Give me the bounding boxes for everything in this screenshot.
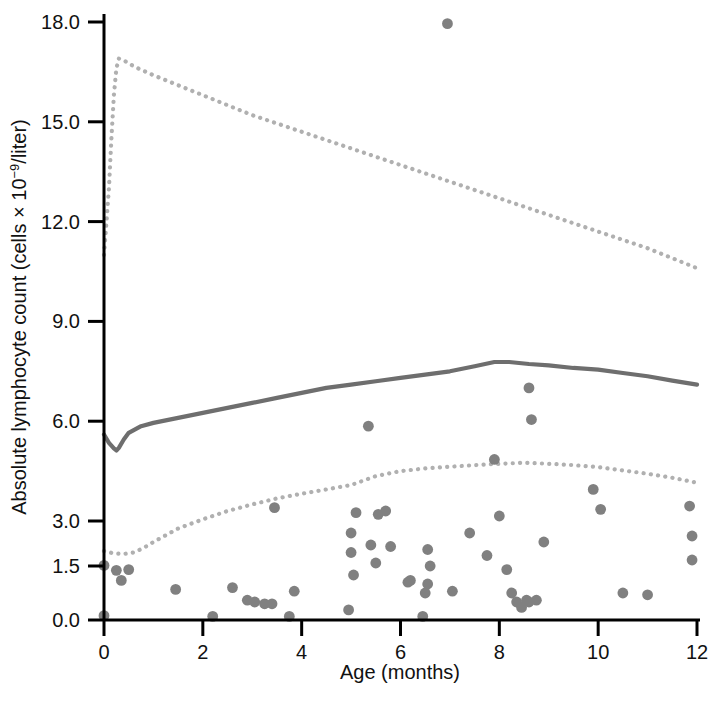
scatter-point [595,504,606,515]
scatter-point [351,507,362,518]
scatter-point [494,511,505,522]
x-tick-label: 8 [494,641,505,663]
svg-text:Absolute lymphocyte count (cel: Absolute lymphocyte count (cells × 10−9/… [7,119,30,515]
y-tick-label: 1.5 [52,555,80,577]
scatter-point [684,501,695,512]
y-tick-label: 6.0 [52,410,80,432]
x-tick-label: 2 [197,641,208,663]
scatter-point [343,605,354,616]
y-axis-title-tail: /liter) [8,119,30,163]
scatter-point [111,565,122,576]
y-tick-label: 9.0 [52,310,80,332]
scatter-point [442,18,453,29]
scatter-point [642,589,653,600]
scatter-point [267,598,278,609]
x-tick-label: 10 [587,641,609,663]
scatter-point [346,528,357,539]
scatter-point [249,597,260,608]
scatter-point [482,550,493,561]
x-tick-label: 4 [296,641,307,663]
scatter-point [269,502,280,513]
x-tick-label: 6 [395,641,406,663]
scatter-point [524,383,535,394]
chart-background [0,0,720,708]
scatter-point [538,537,549,548]
scatter-point [422,544,433,555]
x-tick-label: 0 [98,641,109,663]
lymphocyte-count-scatter-chart: 0.01.53.06.09.012.015.018.0 024681012 Ag… [0,0,720,708]
y-tick-label: 15.0 [41,111,80,133]
scatter-point [489,454,500,465]
y-tick-label: 12.0 [41,211,80,233]
y-axis-title: Absolute lymphocyte count (cells × 10−9/… [7,119,30,515]
scatter-point [501,564,512,575]
scatter-point [170,584,181,595]
scatter-point [687,555,698,566]
scatter-point [346,547,357,558]
scatter-point [385,541,396,552]
scatter-point [405,575,416,586]
scatter-point [617,588,628,599]
scatter-point [687,531,698,542]
scatter-point [447,586,458,597]
scatter-point [227,582,238,593]
scatter-point [348,570,359,581]
scatter-point [425,561,436,572]
y-tick-label: 3.0 [52,510,80,532]
scatter-point [123,564,134,575]
scatter-point [370,558,381,569]
scatter-point [588,484,599,495]
y-tick-label: 18.0 [41,11,80,33]
chart-container: 0.01.53.06.09.012.015.018.0 024681012 Ag… [0,0,720,708]
scatter-point [464,528,475,539]
scatter-point [526,414,537,425]
scatter-point [422,579,433,590]
y-axis-title-main: Absolute lymphocyte count (cells × 10 [8,178,30,514]
scatter-point [116,575,127,586]
x-tick-label: 12 [686,641,708,663]
y-tick-label: 0.0 [52,609,80,631]
scatter-point [289,586,300,597]
scatter-point [380,506,391,517]
x-axis-title: Age (months) [340,661,460,683]
y-axis-title-exponent: −9 [7,164,22,179]
scatter-point [363,421,374,432]
scatter-point [365,540,376,551]
scatter-point [531,595,542,606]
